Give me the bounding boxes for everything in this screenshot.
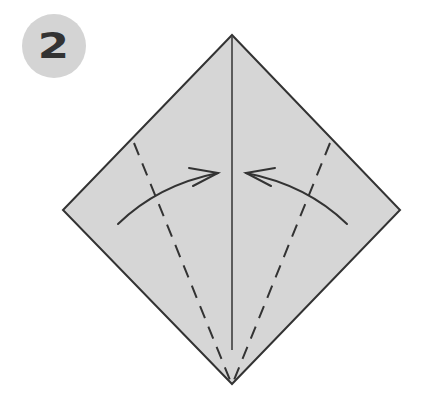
origami-step-diagram: 2 xyxy=(0,0,428,410)
fold-diagram xyxy=(0,0,428,410)
